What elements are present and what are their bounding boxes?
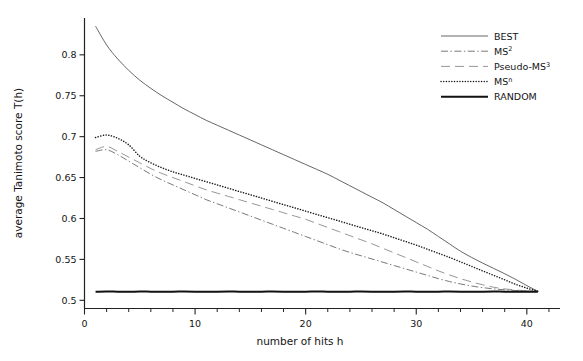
x-tick-label: 10 xyxy=(189,318,201,329)
x-tick-label: 40 xyxy=(521,318,533,329)
x-tick-label: 20 xyxy=(300,318,312,329)
y-tick-label: 0.55 xyxy=(55,254,76,265)
legend-label-pseudo-ms3: Pseudo-MS3 xyxy=(494,61,550,72)
y-tick-label: 0.7 xyxy=(61,131,76,142)
y-tick-label: 0.5 xyxy=(61,295,76,306)
x-axis-minor-ticks xyxy=(107,309,549,313)
y-tick-label: 0.65 xyxy=(55,172,76,183)
x-tick-label: 0 xyxy=(81,318,87,329)
y-axis-title: average Tanimoto score T(h) xyxy=(12,88,24,238)
y-tick-label: 0.75 xyxy=(55,90,76,101)
x-tick-label: 30 xyxy=(410,318,422,329)
x-axis-title: number of hits h xyxy=(257,335,344,347)
legend-label-random: RANDOM xyxy=(494,91,537,102)
y-tick-label: 0.6 xyxy=(61,213,76,224)
legend-label-best: BEST xyxy=(494,31,519,42)
tanimoto-score-line-chart: 0.50.550.60.650.70.750.8 010203040 BESTM… xyxy=(0,0,583,361)
y-tick-label: 0.8 xyxy=(61,49,76,60)
